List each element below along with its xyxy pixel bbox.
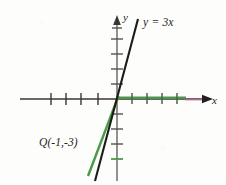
- coordinate-plane-svg: [0, 0, 226, 185]
- y-axis-arrowhead: [113, 15, 121, 25]
- point-label-q: Q(-1,-3): [39, 137, 78, 149]
- equation-label: y = 3x: [143, 17, 174, 29]
- y-axis-label: y: [123, 12, 128, 23]
- x-axis-label: x: [212, 95, 217, 106]
- graph-figure: x y y = 3x Q(-1,-3): [0, 0, 226, 185]
